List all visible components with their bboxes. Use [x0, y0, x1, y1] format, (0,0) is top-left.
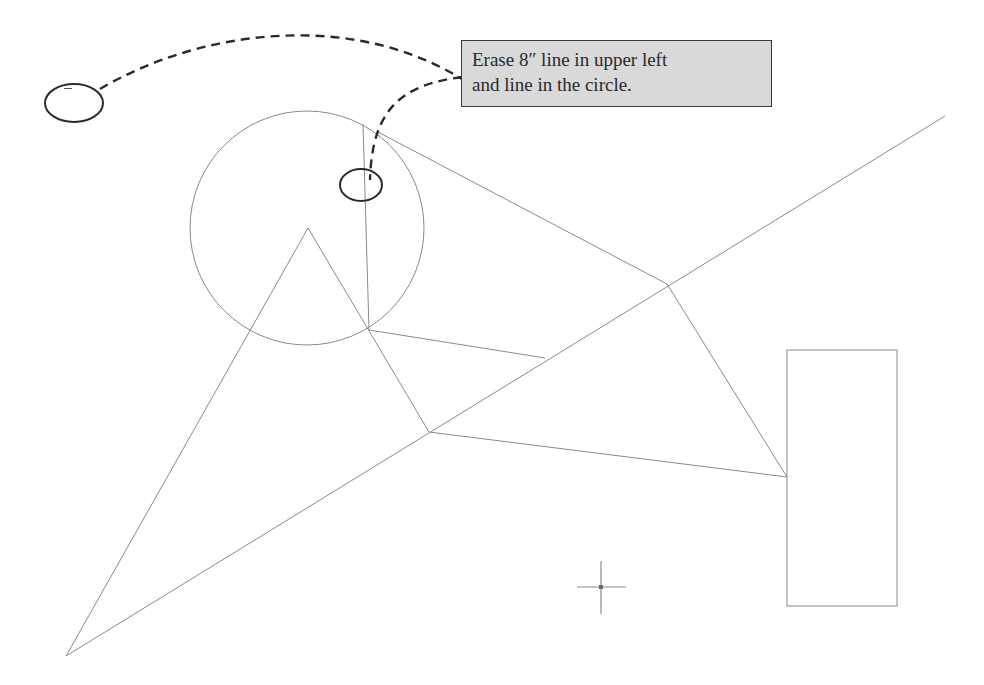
callout-box: Erase 8″ line in upper left and line in … [461, 40, 772, 107]
line-in-circle[interactable] [363, 124, 369, 330]
leader-line-circle [370, 77, 462, 180]
tangent-line-top[interactable] [378, 132, 667, 284]
callout-line-1: Erase 8″ line in upper left [472, 47, 761, 72]
long-diagonal-line[interactable] [66, 116, 945, 656]
line-d-e[interactable] [667, 284, 787, 477]
triangle-right-side[interactable] [308, 228, 429, 432]
annotation-ellipse-upper-left [45, 84, 103, 122]
line-c-e[interactable] [429, 432, 787, 477]
line-a-b[interactable] [369, 330, 545, 358]
annotation-ellipse-circle-line [340, 169, 382, 201]
leader-line-upper-left [100, 35, 462, 89]
upper-left-ellipse-label [64, 88, 72, 89]
circle[interactable] [190, 111, 424, 345]
triangle-left-side[interactable] [66, 228, 308, 656]
rectangle[interactable] [787, 350, 897, 606]
callout-line-2: and line in the circle. [472, 72, 761, 97]
crosshair-icon [577, 561, 626, 614]
